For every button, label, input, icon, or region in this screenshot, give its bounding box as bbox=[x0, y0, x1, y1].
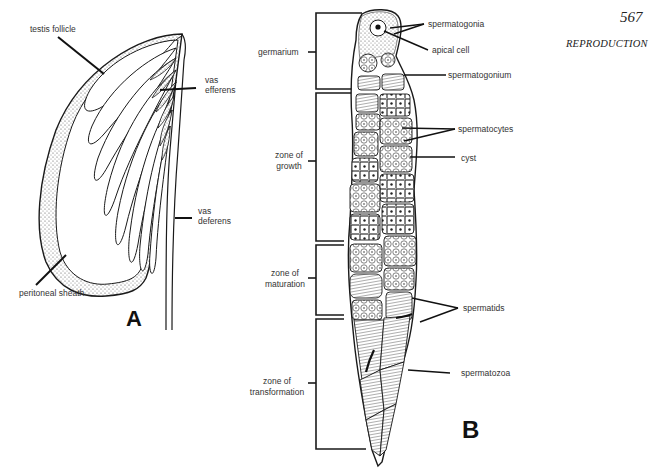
label-vas-efferens-line1: vas bbox=[205, 75, 218, 85]
label-spermatogonium: spermatogonium bbox=[448, 70, 511, 80]
section-title: REPRODUCTION bbox=[566, 38, 648, 49]
label-vas-deferens-line2: deferens bbox=[198, 216, 231, 226]
figure: 567 REPRODUCTION testis follicle vas eff… bbox=[0, 0, 657, 474]
zone-maturation-line2: maturation bbox=[260, 279, 310, 289]
zone-maturation-line1: zone of bbox=[260, 268, 310, 278]
zone-transformation-line2: transformation bbox=[244, 387, 310, 397]
label-apical-cell: apical cell bbox=[432, 45, 469, 55]
testis-drawing bbox=[0, 0, 657, 474]
label-spermatogonia: spermatogonia bbox=[428, 19, 484, 29]
label-vas-deferens-line1: vas bbox=[198, 206, 211, 216]
label-spermatozoa: spermatozoa bbox=[461, 368, 510, 378]
zone-growth-line1: zone of bbox=[268, 150, 310, 160]
panel-letter-b: B bbox=[462, 416, 479, 444]
label-peritoneal-sheath: peritoneal sheath bbox=[19, 288, 84, 298]
label-spermatids: spermatids bbox=[463, 303, 505, 313]
zone-germarium: germarium bbox=[258, 47, 299, 57]
label-spermatocytes: spermatocytes bbox=[458, 124, 513, 134]
label-vas-efferens-line2: efferens bbox=[205, 85, 236, 95]
zone-transformation-line1: zone of bbox=[244, 376, 310, 386]
label-cyst: cyst bbox=[461, 153, 476, 163]
zone-growth-line2: growth bbox=[268, 161, 310, 171]
label-testis-follicle: testis follicle bbox=[30, 24, 76, 34]
page-number: 567 bbox=[620, 9, 643, 26]
panel-letter-a: A bbox=[126, 306, 142, 332]
